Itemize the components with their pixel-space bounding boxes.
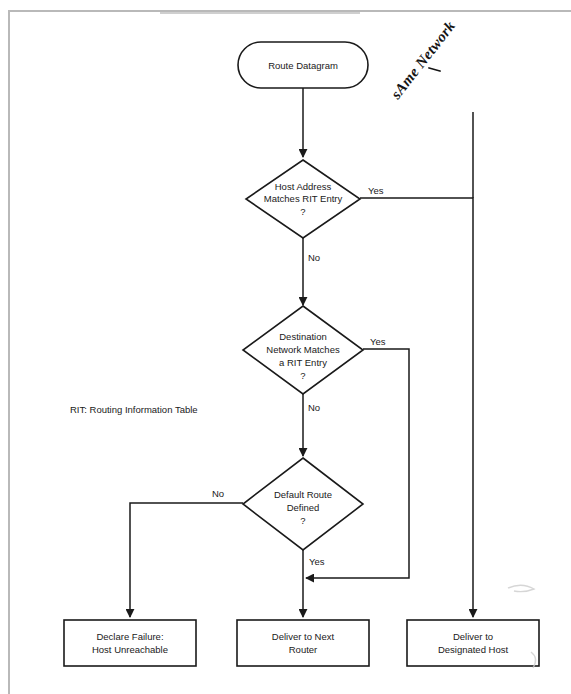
edge-label-decision2-yes: Yes [370, 336, 386, 347]
node-decision1-line3: ? [300, 206, 305, 217]
connector-decision2-yes-to-merge [306, 349, 409, 578]
node-decision2-line4: ? [300, 370, 305, 381]
legend-rit: RIT: Routing Information Table [70, 404, 198, 415]
handwritten-underline-stroke [428, 64, 441, 75]
node-declare-failure-line2: Host Unreachable [92, 644, 168, 655]
node-decision1-line1: Host Address [275, 181, 332, 192]
edge-label-decision3-no: No [212, 488, 224, 499]
node-declare-failure-line1: Declare Failure: [96, 631, 163, 642]
node-decision2-line1: Destination [279, 331, 327, 342]
node-decision1-line2: Matches RIT Entry [264, 193, 343, 204]
node-deliver-designated-host-line2: Designated Host [438, 644, 509, 655]
edge-label-decision2-no: No [308, 402, 320, 413]
scan-smudge-right [508, 585, 534, 591]
node-deliver-designated-host-line1: Deliver to [453, 631, 493, 642]
node-decision2-line3: a RIT Entry [279, 357, 327, 368]
node-deliver-next-router-line1: Deliver to Next [272, 631, 335, 642]
handwritten-annotation-group: sAme Network [387, 18, 468, 111]
edge-label-decision1-yes: Yes [368, 185, 384, 196]
handwritten-annotation: sAme Network [387, 18, 458, 103]
edge-label-decision1-no: No [308, 252, 320, 263]
connector-decision1-yes-to-designated-host [360, 198, 473, 617]
scanned-page: Route Datagram Host Address Matches RIT … [0, 0, 571, 694]
node-decision3-line2: Defined [287, 502, 320, 513]
node-decision3-line3: ? [300, 515, 305, 526]
edge-label-decision3-yes: Yes [309, 556, 325, 567]
flowchart-canvas: Route Datagram Host Address Matches RIT … [0, 0, 571, 694]
node-decision3-line1: Default Route [274, 489, 332, 500]
connector-decision3-no-to-declare-failure [130, 503, 243, 617]
node-deliver-next-router-line2: Router [289, 644, 318, 655]
node-decision2-line2: Network Matches [266, 344, 340, 355]
node-start-label: Route Datagram [268, 60, 338, 71]
